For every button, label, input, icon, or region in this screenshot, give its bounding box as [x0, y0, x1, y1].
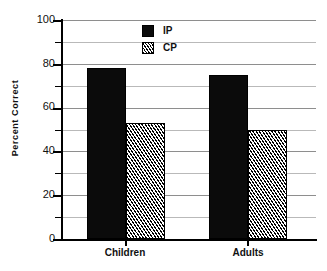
y-tick-label-100: 100: [21, 13, 55, 25]
legend-swatch-cp-icon: [142, 42, 154, 54]
x-axis-line: [61, 239, 317, 241]
y-tick-mark-20: [53, 195, 61, 197]
y-tick-label-20: 20: [21, 188, 55, 200]
y-tick-mark-0: [53, 239, 61, 241]
y-tick-mark-60: [53, 108, 61, 110]
y-tick-label-80: 80: [21, 57, 55, 69]
bar-adults-ip: [209, 75, 248, 239]
legend-item-ip: IP: [142, 22, 202, 39]
y-tick-label-60: 60: [21, 100, 55, 112]
x-tick-mark-children: [125, 239, 127, 246]
bar-children-ip: [87, 68, 126, 239]
bar-children-cp: [126, 123, 165, 239]
gridline-80: [61, 64, 316, 65]
legend: IP CP: [142, 22, 202, 56]
y-tick-label-40: 40: [21, 144, 55, 156]
y-tick-mark-40: [53, 151, 61, 153]
y-axis-title-text: Percent Correct: [10, 80, 20, 157]
bar-chart-figure: Percent Correct 100 80 60 40 20 0 Childr…: [0, 0, 327, 271]
x-tick-mark-adults: [247, 239, 249, 246]
y-axis-title: Percent Correct: [6, 48, 24, 188]
gridline-100: [61, 20, 316, 21]
bar-adults-cp: [248, 130, 287, 240]
legend-swatch-ip-icon: [142, 25, 154, 37]
x-tick-label-children: Children: [105, 247, 146, 258]
x-tick-label-adults: Adults: [232, 247, 263, 258]
y-axis-line: [61, 19, 63, 240]
legend-label-ip: IP: [163, 26, 172, 36]
y-tick-label-0: 0: [21, 232, 55, 244]
legend-item-cp: CP: [142, 39, 202, 56]
legend-label-cp: CP: [163, 43, 177, 53]
y-tick-mark-80: [53, 64, 61, 66]
y-tick-mark-100: [53, 20, 61, 22]
